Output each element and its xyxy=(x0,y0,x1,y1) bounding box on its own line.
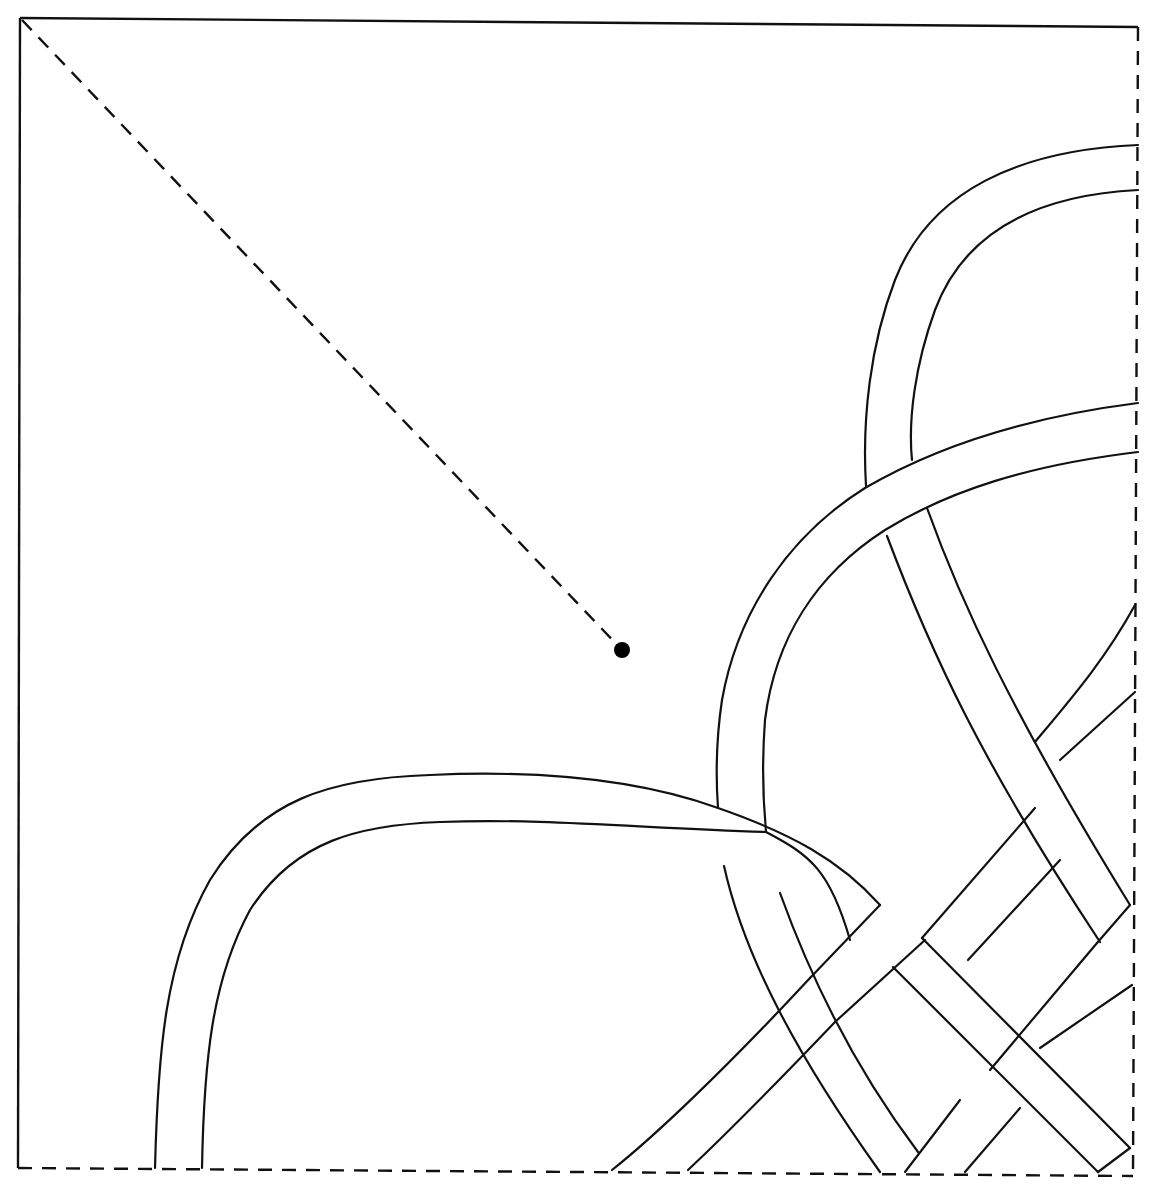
band-d-inner-lower xyxy=(688,1022,835,1170)
knotwork-diagram xyxy=(0,0,1155,1190)
band-c-end-cap xyxy=(1098,1148,1130,1172)
band-a-outer-upper xyxy=(865,145,1138,486)
frame-dashed-edges xyxy=(18,27,1138,1176)
band-d-outer-mid xyxy=(810,905,880,978)
band-a-outer-lower xyxy=(887,536,1100,942)
band-a-inner-lower xyxy=(927,508,1130,905)
center-point xyxy=(614,642,630,658)
band-b-inner-upper xyxy=(763,452,1138,832)
band-c-outer xyxy=(155,774,880,1168)
band-d-outer-end xyxy=(1035,605,1135,742)
band-d-inner-upper xyxy=(968,860,1060,960)
band-e-end-cap xyxy=(1097,905,1130,943)
band-b-inner-lower xyxy=(780,893,918,1152)
right-edge xyxy=(1133,27,1138,1176)
interlace-strands xyxy=(155,145,1138,1172)
band-c-outer-diag xyxy=(922,938,1130,1148)
band-c-inner xyxy=(202,821,850,1168)
center-diagonal-line xyxy=(22,20,622,650)
top-edge xyxy=(20,18,1138,27)
band-d-outer-lower xyxy=(612,978,810,1170)
band-d-inner-end xyxy=(1060,692,1135,760)
band-c-inner-diag xyxy=(893,967,1098,1172)
band-d-outer-upper xyxy=(922,808,1035,938)
band-a-inner-upper xyxy=(911,190,1138,460)
band-d-inner-mid xyxy=(835,940,925,1022)
band-e-inner xyxy=(965,1108,1020,1172)
band-e-mid-outer xyxy=(990,943,1097,1070)
band-e-outer xyxy=(905,1100,960,1172)
band-b-outer-lower xyxy=(724,866,880,1172)
left-edge xyxy=(18,18,20,1168)
